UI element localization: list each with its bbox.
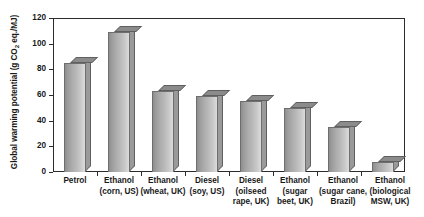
y-tick-80: 80 xyxy=(0,69,53,70)
y-tick-label: 40 xyxy=(37,115,46,126)
y-tick-label: 60 xyxy=(37,89,46,100)
y-axis-title: Global warming potential (g CO2 eq./MJ) xyxy=(6,12,24,172)
bar-diesel-soy-us xyxy=(196,90,218,172)
bar-ethanol-biological-msw-uk xyxy=(372,156,394,172)
x-label-ethanol-corn-us: Ethanol (corn, US) xyxy=(95,176,143,197)
bar-ethanol-sugar-beet-uk xyxy=(284,102,306,172)
bar-front-face xyxy=(240,101,262,172)
bar-front-face xyxy=(372,162,394,172)
y-tick-40: 40 xyxy=(0,121,53,122)
y-tick-label: 0 xyxy=(41,166,46,177)
y-tick-mark xyxy=(49,172,53,173)
bar-ethanol-corn-us xyxy=(108,26,130,172)
y-tick-100: 100 xyxy=(0,44,53,45)
bar-front-face xyxy=(108,32,130,172)
y-tick-0: 0 xyxy=(0,172,53,173)
y-axis-title-post: eq./MJ) xyxy=(10,15,19,45)
y-tick-label: 80 xyxy=(37,63,46,74)
y-tick-label: 100 xyxy=(32,38,46,49)
y-axis-title-subscript: 2 xyxy=(13,45,20,48)
x-label-petrol: Petrol xyxy=(53,176,97,187)
x-label-diesel-oilseed-rape-uk: Diesel (oilseed rape, UK) xyxy=(228,176,274,208)
y-tick-label: 120 xyxy=(32,12,46,23)
global-warming-potential-bar-chart: Global warming potential (g CO2 eq./MJ) … xyxy=(0,0,424,217)
y-tick-60: 60 xyxy=(0,95,53,96)
x-label-ethanol-biological-msw-uk: Ethanol (biological MSW, UK) xyxy=(360,176,420,208)
bar-ethanol-wheat-uk xyxy=(152,85,174,172)
bar-front-face xyxy=(284,108,306,172)
bar-diesel-oilseed-rape-uk xyxy=(240,95,262,172)
bar-front-face xyxy=(196,96,218,172)
bar-front-face xyxy=(328,127,350,172)
bar-petrol xyxy=(64,57,86,172)
x-label-ethanol-wheat-uk: Ethanol (wheat, UK) xyxy=(138,176,188,197)
bar-ethanol-sugar-cane-brazil xyxy=(328,121,350,172)
bar-front-face xyxy=(64,63,86,172)
y-tick-120: 120 xyxy=(0,18,53,19)
y-tick-20: 20 xyxy=(0,146,53,147)
y-tick-label: 20 xyxy=(37,140,46,151)
bar-front-face xyxy=(152,91,174,172)
x-label-diesel-soy-us: Diesel (soy, US) xyxy=(184,176,230,197)
y-axis-title-pre: Global warming potential (g CO xyxy=(10,48,19,169)
